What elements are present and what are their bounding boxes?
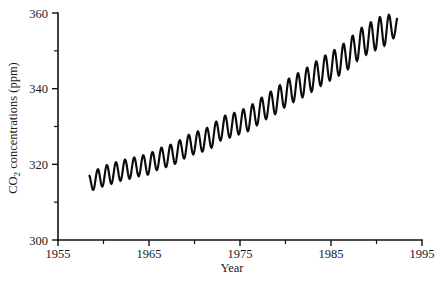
y-axis-title: CO2 concentrations (ppm) (6, 62, 22, 194)
x-tick-label: 1965 (137, 247, 162, 261)
co2-data-line (89, 15, 397, 190)
y-tick-label: 360 (29, 7, 48, 21)
y-tick-label: 300 (29, 234, 48, 248)
x-tick-label: 1995 (410, 247, 435, 261)
y-tick-label: 320 (29, 158, 48, 172)
y-tick-label: 340 (29, 82, 48, 96)
y-axis-tick-labels: 300320340360 (29, 7, 48, 248)
x-axis-title: Year (220, 261, 244, 275)
y-axis-title-rest: concentrations (ppm) (6, 62, 20, 172)
x-tick-label: 1975 (228, 247, 253, 261)
x-axis-tick-labels: 19551965197519851995 (46, 247, 435, 261)
y-axis-title-group: CO2 concentrations (ppm) (6, 62, 22, 194)
x-tick-label: 1955 (46, 247, 71, 261)
x-tick-label: 1985 (319, 247, 344, 261)
chart-plot-area: 300320340360 19551965197519851995 Year C… (0, 0, 441, 282)
y-axis-ticks (52, 13, 58, 240)
y-axis-title-main: CO (6, 176, 20, 193)
x-axis-ticks (58, 240, 422, 246)
co2-concentration-chart: 300320340360 19551965197519851995 Year C… (0, 0, 441, 282)
